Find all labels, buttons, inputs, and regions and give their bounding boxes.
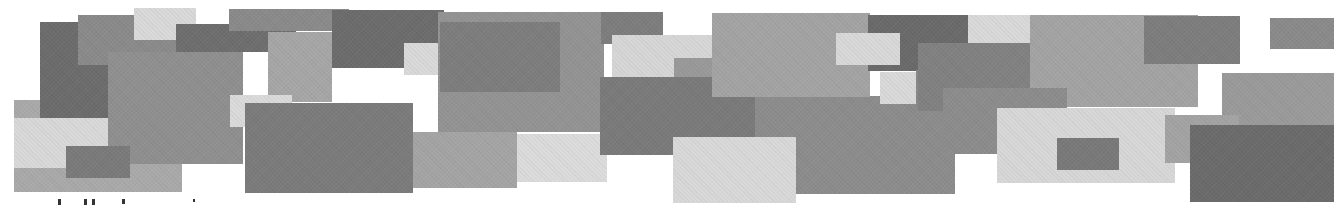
abstract-rectangles-figure — [0, 0, 1339, 209]
gray-rectangle — [1057, 138, 1119, 170]
gray-rectangle — [245, 103, 413, 193]
gray-rectangle — [836, 33, 900, 65]
cropped-caption — [40, 199, 1300, 209]
gray-rectangle — [1270, 18, 1334, 49]
caption-glyph-fragment — [58, 199, 61, 205]
gray-rectangle — [229, 9, 349, 31]
gray-rectangle — [440, 22, 560, 92]
caption-glyph-fragment — [193, 199, 195, 202]
gray-rectangle — [880, 72, 916, 104]
gray-rectangle — [66, 146, 130, 178]
gray-rectangle — [1190, 125, 1334, 202]
caption-glyph-fragment — [122, 199, 125, 204]
gray-rectangle — [968, 15, 1030, 43]
gray-rectangle — [413, 132, 517, 188]
caption-glyph-fragment — [92, 199, 95, 205]
gray-rectangle — [268, 32, 332, 102]
gray-rectangle — [517, 134, 607, 182]
gray-rectangle — [1144, 16, 1240, 64]
caption-glyph-fragment — [84, 199, 87, 205]
gray-rectangle — [673, 137, 796, 203]
